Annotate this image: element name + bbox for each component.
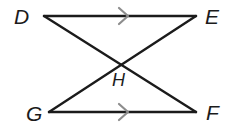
vertex-label-D: D [14, 5, 29, 28]
vertex-label-E: E [205, 5, 220, 28]
geometry-canvas: D E G F H [0, 0, 233, 136]
vertex-label-H: H [112, 70, 126, 90]
vertex-label-G: G [26, 102, 42, 125]
geometry-figure: D E G F H [0, 0, 233, 136]
vertex-label-F: F [206, 101, 220, 124]
